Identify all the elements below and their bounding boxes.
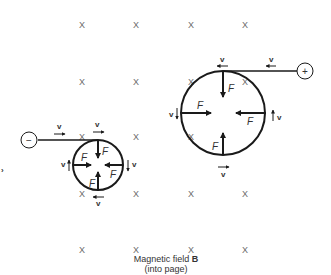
force-label: F <box>102 146 109 157</box>
field-x-mark: X <box>79 77 85 87</box>
force-label: F <box>212 141 219 152</box>
positive-charge-trajectory: + v v v v v F F F F <box>169 55 313 179</box>
edge-mark: › <box>1 166 4 175</box>
field-x-mark: X <box>133 77 139 87</box>
field-x-mark: X <box>133 20 139 30</box>
field-x-mark: X <box>242 20 248 30</box>
force-label: F <box>247 116 254 127</box>
velocity-label: v <box>96 199 101 208</box>
force-label: F <box>110 169 117 180</box>
field-x-mark: X <box>242 189 248 199</box>
velocity-label: v <box>277 113 282 122</box>
velocity-label: v <box>57 122 62 131</box>
magnetic-field-diagram: X X X X X X X X X X X X X X X X X X X + … <box>0 0 331 275</box>
field-x-mark: X <box>133 189 139 199</box>
field-x-mark: X <box>133 132 139 142</box>
velocity-label: v <box>61 160 66 169</box>
field-x-mark: X <box>79 20 85 30</box>
velocity-label: v <box>221 170 226 179</box>
caption-field-symbol: B <box>192 254 199 264</box>
force-label: F <box>89 178 96 189</box>
plus-sign: + <box>302 66 308 77</box>
caption-prefix: Magnetic field <box>134 254 192 264</box>
minus-sign: − <box>26 135 32 146</box>
force-label: F <box>228 83 235 94</box>
velocity-label: v <box>132 160 137 169</box>
field-x-mark: X <box>188 20 194 30</box>
velocity-label: v <box>220 55 225 64</box>
field-x-mark: X <box>79 189 85 199</box>
caption-line-2: (into page) <box>144 264 187 274</box>
caption-line-1: Magnetic field B <box>134 254 199 264</box>
field-x-mark: X <box>242 245 248 255</box>
velocity-label: v <box>169 110 174 119</box>
force-label: F <box>197 100 204 111</box>
velocity-label: v <box>95 120 100 129</box>
field-x-mark: X <box>188 189 194 199</box>
field-x-mark: X <box>79 245 85 255</box>
velocity-label: v <box>269 55 274 64</box>
force-label: F <box>81 152 88 163</box>
